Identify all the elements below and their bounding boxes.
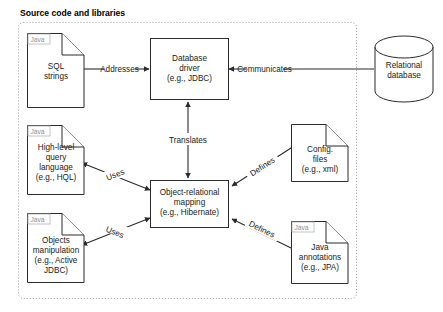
sql-strings-line-2: strings	[44, 72, 68, 81]
objects-manipulation-line-4: JDBC)	[44, 266, 68, 275]
node-java-annotations[interactable]: Java Java annotations (e.g., JPA)	[292, 222, 349, 284]
edge-addresses: Addresses	[84, 65, 149, 74]
hql-line-1: High-level	[38, 143, 75, 152]
orm-line-2: mapping	[174, 198, 206, 207]
edge-translates: Translates	[166, 102, 210, 178]
database-driver-line-2: driver	[179, 64, 200, 73]
java-annotations-line-2: annotations	[299, 253, 341, 262]
hql-line-3: language	[39, 163, 73, 172]
group-title: Source code and libraries	[20, 8, 125, 18]
relational-database-line-2: database	[387, 71, 421, 80]
relational-database-line-1: Relational	[386, 61, 423, 70]
relational-database-top	[375, 36, 433, 58]
edge-label-addresses: Addresses	[100, 65, 139, 74]
edge-label-communicates: Communicates	[237, 65, 292, 74]
objects-manipulation-line-2: manipulation	[33, 246, 80, 255]
node-orm[interactable]: Object-relational mapping (e.g., Hiberna…	[151, 181, 229, 228]
node-sql-strings[interactable]: Java SQL strings	[28, 34, 85, 108]
config-files-line-3: (e.g., xml)	[302, 165, 339, 174]
edge-label-translates: Translates	[169, 136, 207, 145]
java-annotations-java-tag: Java	[295, 224, 309, 231]
node-database-driver[interactable]: Database driver (e.g., JDBC)	[151, 39, 229, 100]
orm-line-3: (e.g., Hibernate)	[160, 208, 219, 217]
orm-line-1: Object-relational	[160, 188, 220, 197]
database-driver-line-3: (e.g., JDBC)	[167, 74, 212, 83]
diagram-canvas: Source code and libraries Addresses Comm…	[0, 0, 443, 312]
database-driver-line-1: Database	[172, 54, 207, 63]
edge-defines-config: Defines	[232, 148, 291, 186]
orm-architecture-diagram: Source code and libraries Addresses Comm…	[0, 0, 443, 312]
java-annotations-line-3: (e.g., JPA)	[301, 263, 339, 272]
objects-manipulation-java-tag: Java	[31, 216, 45, 223]
objects-manipulation-line-3: (e.g., Active	[35, 256, 78, 265]
edge-uses-objects: Uses	[82, 218, 150, 245]
hql-line-2: query	[46, 153, 67, 162]
edge-communicates: Communicates	[229, 65, 374, 74]
node-config-files[interactable]: Config. files (e.g., xml)	[292, 125, 349, 182]
hql-line-4: (e.g., HQL)	[36, 173, 77, 182]
node-objects-manipulation[interactable]: Java Objects manipulation (e.g., Active …	[28, 214, 85, 283]
node-relational-database[interactable]: Relational database	[375, 36, 433, 102]
edge-defines-annotations: Defines	[232, 215, 291, 248]
sql-strings-java-tag: Java	[31, 36, 45, 43]
objects-manipulation-line-1: Objects	[42, 236, 70, 245]
node-hql[interactable]: Java High-level query language (e.g., HQ…	[28, 126, 85, 195]
edge-uses-hql: Uses	[82, 163, 150, 190]
sql-strings-line-1: SQL	[48, 62, 65, 71]
hql-java-tag: Java	[31, 128, 45, 135]
config-files-line-1: Config.	[307, 145, 333, 154]
java-annotations-line-1: Java	[311, 243, 329, 252]
config-files-line-2: files	[313, 155, 328, 164]
